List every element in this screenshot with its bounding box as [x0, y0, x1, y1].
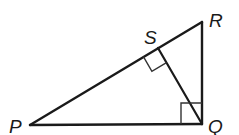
segment-sq-altitude	[158, 48, 202, 124]
label-p: P	[9, 116, 22, 135]
label-q: Q	[208, 116, 223, 135]
right-angle-marks	[143, 57, 202, 124]
label-s: S	[144, 27, 157, 48]
right-angle-mark-s	[143, 57, 166, 72]
triangle-diagram: P Q R S	[0, 0, 239, 135]
segment-pq	[30, 124, 202, 125]
label-r: R	[209, 10, 223, 31]
triangle-pqr	[30, 22, 202, 125]
segment-pr	[30, 22, 202, 125]
